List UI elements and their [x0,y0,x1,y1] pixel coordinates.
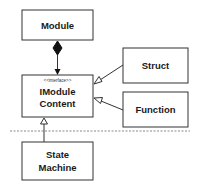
struct-label: Struct [142,60,170,71]
struct-node[interactable]: Struct [123,48,188,83]
imodule-content-label-line1: IModule [40,86,76,97]
imodule-content-node[interactable]: <<interface>> IModule Content [22,75,93,117]
function-node[interactable]: Function [123,92,188,127]
imodule-content-label-line2: Content [40,98,77,109]
module-label: Module [41,20,74,31]
hollow-triangle-icon [94,98,103,104]
interface-stereotype: <<interface>> [44,78,72,83]
hollow-triangle-icon [94,77,102,85]
hollow-triangle-icon [41,118,48,124]
uml-diagram: Module <<interface>> IModule Content Str… [0,0,199,184]
composition-diamond-icon [53,41,62,55]
composition-edge [53,41,62,75]
state-machine-label-line1: State [46,149,69,160]
state-machine-node[interactable]: State Machine [22,142,93,180]
function-realization-edge [94,98,123,111]
struct-realization-edge [94,65,123,84]
module-node[interactable]: Module [22,10,93,40]
function-label: Function [135,104,175,115]
state-machine-realization-edge [41,118,48,142]
state-machine-label-line2: Machine [38,162,76,173]
arrowhead-icon [55,69,61,75]
